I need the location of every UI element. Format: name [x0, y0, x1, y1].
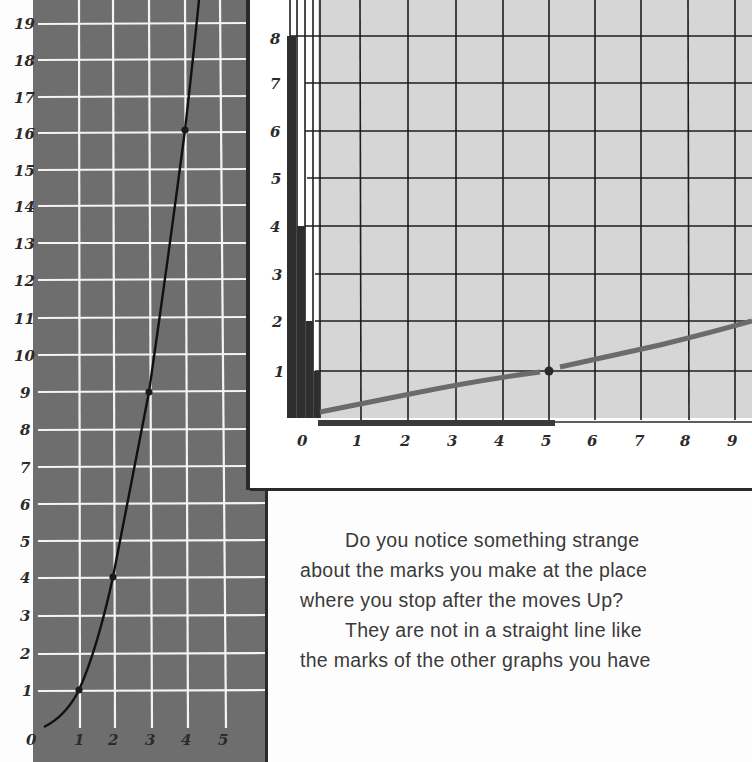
left-x-label: 2	[108, 731, 118, 749]
left-y-label: 6	[20, 496, 30, 514]
right-y-label: 2	[272, 313, 282, 331]
right-y-label: 5	[271, 170, 281, 188]
left-x-label: 5	[218, 731, 228, 749]
left-y-label: 14	[14, 198, 35, 216]
right-x-label: 6	[587, 432, 597, 450]
right-y-label: 4	[270, 218, 280, 236]
text-line: Do you notice something strange	[300, 525, 740, 555]
right-x-label: 4	[494, 432, 504, 450]
right-y-label: 7	[270, 75, 280, 93]
right-x-label: 0	[297, 432, 307, 450]
right-x-label: 7	[634, 432, 644, 450]
left-y-label: 3	[20, 607, 30, 625]
left-y-label: 17	[14, 89, 35, 107]
left-x-label: 1	[74, 731, 84, 749]
horizontal-bar-5	[318, 420, 555, 426]
right-y-label: 1	[274, 363, 284, 381]
left-y-label: 7	[20, 459, 30, 477]
right-x-label: 8	[680, 432, 690, 450]
left-origin-label: 0	[26, 731, 36, 749]
vertical-bar-2	[306, 321, 313, 418]
text-line: about the marks you make at the place	[300, 555, 740, 585]
left-grid	[38, 0, 265, 728]
left-y-label: 5	[20, 533, 30, 551]
right-curve	[320, 372, 540, 412]
left-y-label: 15	[14, 162, 35, 180]
body-text: Do you notice something strange about th…	[300, 525, 740, 675]
left-y-label: 1	[22, 682, 32, 700]
left-y-label: 11	[14, 310, 35, 328]
vertical-bar-8	[287, 36, 296, 418]
left-y-label: 4	[20, 569, 30, 587]
vertical-bar-4	[297, 226, 305, 418]
left-y-label: 9	[20, 384, 30, 402]
point-5-1	[545, 367, 554, 376]
left-y-label: 2	[20, 645, 30, 663]
left-y-label: 10	[14, 347, 35, 365]
point-3-9	[145, 388, 152, 395]
left-y-label: 16	[14, 125, 35, 143]
right-y-label: 6	[270, 123, 280, 141]
left-curve	[44, 0, 199, 727]
vertical-bar-1	[314, 371, 320, 418]
left-y-label: 19	[14, 15, 35, 33]
text-line: where you stop after the moves Up?	[300, 585, 740, 615]
left-x-label: 4	[181, 731, 191, 749]
left-graph	[0, 0, 270, 762]
text-line: the marks of the other graphs you have	[300, 645, 740, 675]
point-2-4	[109, 573, 116, 580]
point-4-16	[181, 126, 188, 133]
right-curve	[560, 321, 752, 367]
right-y-label: 8	[270, 30, 280, 48]
right-x-label: 5	[541, 432, 551, 450]
left-y-label: 8	[20, 421, 30, 439]
left-y-label: 12	[14, 272, 35, 290]
left-y-label: 18	[14, 52, 35, 70]
right-x-label: 1	[352, 432, 362, 450]
right-graph	[250, 0, 752, 440]
point-1-1	[75, 686, 82, 693]
right-x-label: 9	[727, 432, 737, 450]
right-x-label: 2	[400, 432, 410, 450]
right-x-label: 3	[447, 432, 457, 450]
left-x-label: 3	[145, 731, 155, 749]
right-grid	[290, 0, 752, 420]
left-y-label: 13	[14, 235, 35, 253]
right-y-label: 3	[272, 266, 282, 284]
text-line: They are not in a straight line like	[300, 615, 740, 645]
